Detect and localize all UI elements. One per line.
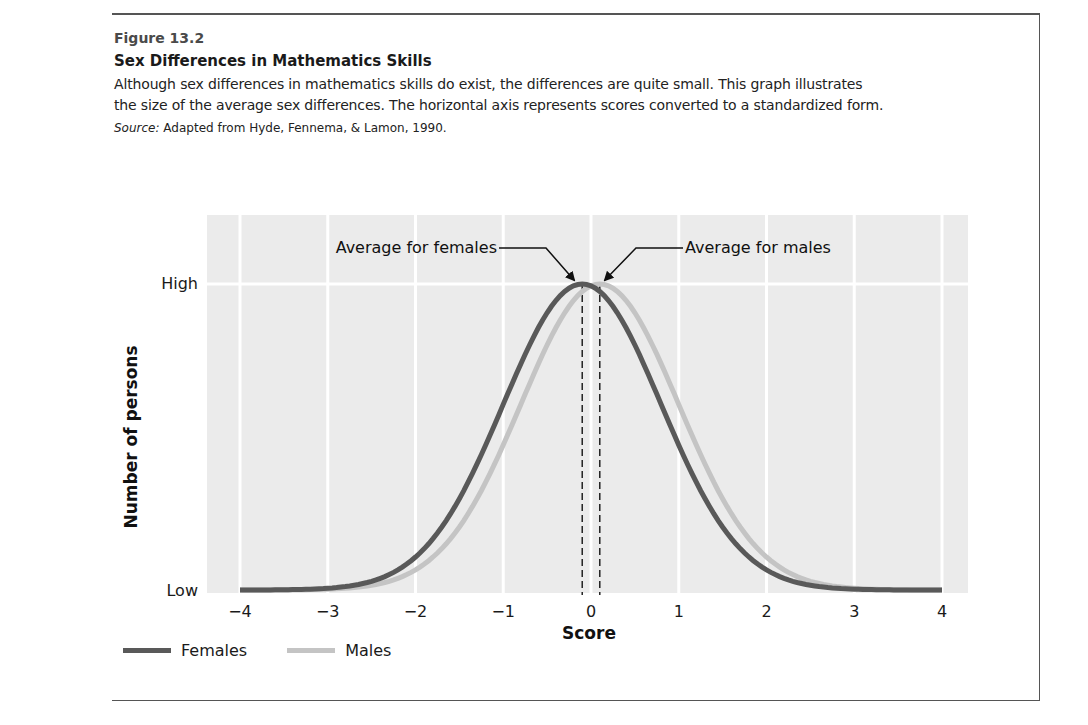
x-tick-label: −1 [491,602,515,621]
legend-label-males: Males [345,641,391,660]
x-tick-label: 0 [586,602,596,621]
x-tick-label: −2 [404,602,428,621]
x-tick-label: −4 [228,602,252,621]
x-tick-label: −3 [316,602,340,621]
x-tick-label: 2 [761,602,771,621]
legend-item-females: Females [123,641,247,660]
x-tick-label: 1 [674,602,684,621]
legend: Females Males [123,641,431,660]
annotation-males: Average for males [685,238,831,257]
y-tick-low: Low [166,581,198,600]
legend-item-males: Males [287,641,391,660]
x-tick-label: 4 [937,602,947,621]
y-tick-high: High [161,274,198,293]
males-swatch [287,648,335,653]
females-swatch [123,648,171,653]
x-tick-label: 3 [849,602,859,621]
legend-label-females: Females [181,641,247,660]
annotation-females: Average for females [336,238,497,257]
chart: High Low Number of persons −4−3−2−101234… [0,0,1088,725]
y-axis-title: Number of persons [121,345,141,528]
x-tick-labels: −4−3−2−101234 [228,602,947,621]
x-axis-title: Score [562,623,616,643]
